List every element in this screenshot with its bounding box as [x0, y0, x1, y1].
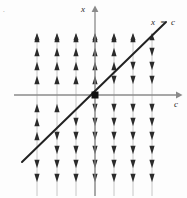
field-arrow-up: [34, 132, 39, 140]
field-arrow-down: [34, 174, 39, 182]
field-arrow-down: [130, 76, 135, 84]
slope-field-figure: x c x = c .: [0, 0, 187, 198]
field-arrow-down: [73, 160, 78, 168]
field-arrow-up: [54, 76, 59, 84]
field-arrow-down: [149, 146, 154, 154]
field-arrow-down: [111, 104, 116, 112]
field-arrow-up: [111, 48, 116, 56]
field-arrow-down: [111, 160, 116, 168]
slope-field-canvas: x c x = c .: [0, 0, 187, 198]
field-arrow-down: [111, 76, 116, 84]
field-arrow-down: [111, 146, 116, 154]
field-arrow-down: [130, 146, 135, 154]
field-arrow-up: [34, 104, 39, 112]
field-arrow-up: [34, 76, 39, 84]
y-axis-label: x: [80, 4, 85, 14]
field-arrow-up: [111, 62, 116, 70]
field-arrow-down: [130, 174, 135, 182]
field-line-tip-arrow: [130, 33, 135, 40]
field-arrow-down: [149, 104, 154, 112]
field-arrow-down: [111, 118, 116, 126]
field-arrow-down: [34, 160, 39, 168]
field-line-tip-arrow: [73, 33, 78, 40]
solution-label-var: x: [150, 17, 155, 27]
field-arrow-down: [149, 118, 154, 126]
y-axis-arrowhead: [92, 6, 99, 13]
field-arrow-down: [54, 132, 59, 140]
field-arrow-up: [54, 48, 59, 56]
field-arrow-down: [149, 160, 154, 168]
field-arrow-down: [73, 132, 78, 140]
field-arrow-down: [149, 132, 154, 140]
field-arrow-up: [34, 118, 39, 126]
field-arrow-down: [130, 62, 135, 70]
y-axis: [92, 6, 99, 197]
field-arrow-up: [73, 48, 78, 56]
field-arrow-down: [149, 62, 154, 70]
field-arrow-down: [73, 174, 78, 182]
field-arrow-down: [111, 174, 116, 182]
field-arrow-up: [73, 62, 78, 70]
origin-marker: [92, 92, 99, 99]
field-arrow-down: [73, 146, 78, 154]
field-line-tip-arrow: [111, 33, 116, 40]
field-arrow-down: [111, 132, 116, 140]
field-arrow-down: [130, 118, 135, 126]
field-arrow-down: [130, 160, 135, 168]
field-line-tip-arrow: [34, 33, 39, 40]
solution-line-label: x = c: [150, 17, 175, 27]
field-arrow-up: [34, 48, 39, 56]
field-arrow-down: [54, 174, 59, 182]
field-arrow-up: [34, 62, 39, 70]
field-arrow-down: [130, 132, 135, 140]
field-arrow-down: [54, 146, 59, 154]
x-axis-label: c: [174, 99, 178, 109]
solution-label-equals: =: [160, 17, 165, 27]
field-arrow-down: [149, 76, 154, 84]
field-arrow-down: [54, 160, 59, 168]
field-arrow-up: [73, 76, 78, 84]
field-arrow-down: [130, 104, 135, 112]
field-arrow-down: [149, 174, 154, 182]
field-arrow-up: [54, 104, 59, 112]
corner-mark: .: [3, 6, 5, 14]
field-line-tip-arrow: [54, 33, 59, 40]
solution-label-value: c: [171, 17, 175, 27]
field-arrow-down: [149, 48, 154, 56]
field-arrow-up: [54, 62, 59, 70]
field-arrow-down: [73, 118, 78, 126]
x-axis-arrowhead: [176, 92, 183, 99]
